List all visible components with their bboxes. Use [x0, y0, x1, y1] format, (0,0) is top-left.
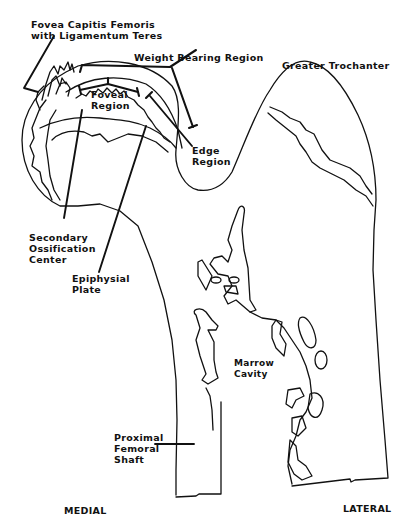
medial-shaft-bottom: [176, 402, 221, 497]
marrow-lateral-nodule-c: [315, 351, 327, 369]
label-greater-trochanter: Greater Trochanter: [282, 60, 390, 71]
label-epiphysial-plate: Epiphysial Plate: [72, 273, 130, 295]
leader-secondary-ossification: [64, 110, 82, 218]
label-line: Proximal: [114, 432, 164, 443]
label-line: MEDIAL: [64, 505, 107, 516]
label-medial: MEDIAL: [64, 505, 107, 516]
label-lateral: LATERAL: [343, 503, 391, 514]
label-line: Region: [192, 156, 231, 167]
label-edge-region: Edge Region: [192, 145, 231, 167]
bracket-foveal-right-cap: [137, 88, 139, 96]
label-line: Fovea Capitis Femoris: [31, 19, 163, 30]
label-line: Cavity: [234, 369, 274, 380]
label-line: Femoral: [114, 443, 164, 454]
marrow-lateral-nodule-a: [272, 320, 286, 356]
label-line: LATERAL: [343, 503, 391, 514]
label-line: Secondary: [29, 232, 96, 243]
label-weight-bearing: Weight Bearing Region: [134, 52, 264, 63]
label-line: Edge: [192, 145, 231, 156]
label-proximal-femoral-shaft: Proximal Femoral Shaft: [114, 432, 164, 465]
marrow-lateral-finger-a: [286, 388, 304, 408]
marrow-medial-lobe: [194, 309, 218, 384]
label-line: Ossification: [29, 243, 96, 254]
epiphysial-plate-upper: [40, 117, 176, 148]
marrow-upper-lobe: [210, 206, 256, 312]
label-line: Shaft: [114, 454, 164, 465]
marrow-void-b: [229, 277, 239, 283]
label-line: with Ligamentum Teres: [31, 30, 163, 41]
epiphysial-plate-lower: [52, 131, 168, 152]
marrow-medial-tail: [206, 388, 213, 430]
label-line: Foveal: [91, 89, 130, 100]
label-marrow-cavity: Marrow Cavity: [234, 358, 274, 380]
label-line: Plate: [72, 284, 130, 295]
trochanter-physis-lower: [268, 113, 373, 206]
leader-epiphysial-plate: [99, 126, 146, 272]
label-line: Marrow: [234, 358, 274, 369]
marrow-lateral-nodule-b: [298, 317, 316, 348]
label-line: Greater Trochanter: [282, 60, 390, 71]
femur-diagram: Fovea Capitis Femoris with Ligamentum Te…: [0, 0, 411, 529]
marrow-lateral-nodule-d: [308, 393, 323, 417]
label-line: Epiphysial: [72, 273, 130, 284]
trochanter-physis-upper: [270, 107, 372, 194]
ligamentum-teres: [36, 62, 74, 110]
label-line: Weight Bearing Region: [134, 52, 264, 63]
medial-head-cartilage: [30, 100, 52, 200]
bracket-weight-bearing-line: [172, 68, 193, 127]
label-line: Region: [91, 100, 130, 111]
bracket-weight-bearing-cap: [189, 125, 197, 128]
marrow-void-a: [211, 277, 221, 283]
label-fovea-capitis: Fovea Capitis Femoris with Ligamentum Te…: [31, 19, 163, 41]
bracket-foveal-left-cap: [79, 86, 81, 94]
label-foveal-region: Foveal Region: [91, 89, 130, 111]
label-secondary-ossification: Secondary Ossification Center: [29, 232, 96, 265]
medial-head-inner: [46, 110, 60, 200]
label-line: Center: [29, 254, 96, 265]
